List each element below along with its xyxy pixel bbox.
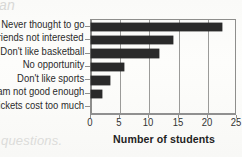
- category-axis-labels: Never thought to goFriends not intereste…: [0, 18, 86, 113]
- bar-row: [91, 74, 235, 87]
- bar-row: [91, 60, 235, 73]
- bar: [91, 76, 110, 84]
- value-ticklabel: 10: [143, 117, 154, 128]
- bar-row: [91, 101, 235, 114]
- value-ticklabel: 15: [172, 117, 183, 128]
- bar: [91, 23, 222, 31]
- category-label: Friends not interested: [0, 31, 84, 45]
- bar: [91, 90, 102, 98]
- category-axis-tickmarks: [85, 19, 91, 113]
- category-tickmark: [85, 53, 90, 54]
- category-tickmark: [85, 93, 90, 94]
- category-tickmark: [85, 106, 90, 107]
- bar-row: [91, 47, 235, 60]
- category-label: No opportunity: [22, 58, 84, 72]
- bar: [91, 36, 173, 44]
- category-label: Tickets cost too much: [0, 99, 84, 113]
- bar: [91, 63, 124, 71]
- value-ticklabel: 20: [202, 117, 213, 128]
- scanned-page-background: an questions. Never thought to goFriends…: [0, 0, 242, 157]
- value-ticklabel: 25: [231, 117, 242, 128]
- value-ticklabel: 0: [87, 117, 92, 128]
- category-tickmark: [85, 66, 90, 67]
- plot-area: [90, 19, 236, 113]
- category-label: Don't like basketball: [0, 45, 84, 59]
- value-axis-title: Number of students: [90, 133, 238, 145]
- value-axis-ticklabels: 0510152025: [90, 117, 236, 131]
- category-tickmark: [85, 79, 90, 80]
- bar-row: [91, 87, 235, 100]
- horizontal-bar-chart: Never thought to goFriends not intereste…: [0, 0, 242, 157]
- value-ticklabel: 5: [117, 117, 122, 128]
- bar: [91, 49, 159, 57]
- category-label: Don't like sports: [17, 72, 84, 86]
- bar-row: [91, 20, 235, 33]
- category-tickmark: [85, 39, 90, 40]
- bar-row: [91, 33, 235, 46]
- category-label: Team not good enough: [0, 85, 84, 99]
- bar-series: [91, 20, 235, 113]
- category-label: Never thought to go: [1, 18, 84, 32]
- category-tickmark: [85, 26, 90, 27]
